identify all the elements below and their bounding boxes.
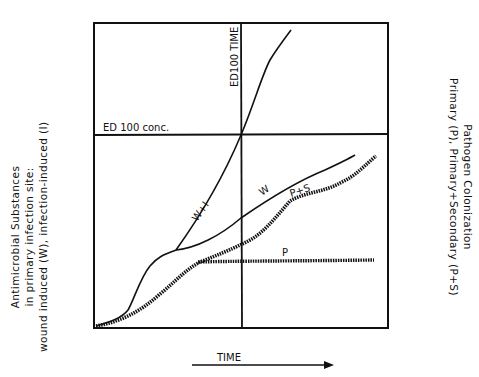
time-arrowhead-icon: [324, 361, 334, 369]
left-axis-label: Antimicrobial Substances in primary infe…: [8, 122, 68, 352]
ed100-time-label: ED100 TIME: [229, 27, 240, 87]
left-axis-line2: in primary infection site:: [22, 122, 36, 352]
left-axis-line3: wound induced (W), infection-induced (I): [36, 122, 50, 352]
left-axis-line1: Antimicrobial Substances: [8, 122, 22, 352]
curve-p: [198, 260, 374, 262]
diagram-canvas: ED 100 conc. ED100 TIME W+I W P+S P TIME: [0, 0, 479, 377]
w-plus-i-label: W+I: [190, 199, 211, 223]
w-label: W: [257, 183, 272, 198]
right-axis-label: Pathogen Colonization Primary (P), Prima…: [435, 72, 475, 302]
right-axis-line2: Primary (P), Primary+Secondary (P+S): [447, 72, 461, 302]
curve-p-plus-s: [96, 156, 376, 326]
p-label: P: [282, 247, 288, 258]
curve-w-plus-i: [96, 30, 291, 326]
right-axis-line1: Pathogen Colonization: [461, 72, 475, 302]
ed100-conc-label: ED 100 conc.: [103, 122, 169, 133]
ed100-time-line: [241, 23, 242, 328]
time-axis-label: TIME: [216, 352, 241, 363]
